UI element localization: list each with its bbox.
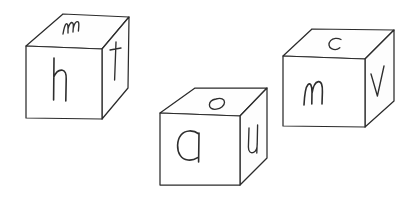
cube-right-front-face (283, 56, 365, 127)
cube-middle-front-face (160, 113, 240, 185)
cubes-drawing (0, 0, 418, 201)
cube-middle (160, 88, 267, 185)
cube-right (283, 29, 394, 127)
cube-left-front-face (26, 46, 102, 119)
cube-left (26, 14, 129, 119)
cube-scene: m h t o a u c m v Three hand-drawn cubes… (0, 0, 418, 201)
